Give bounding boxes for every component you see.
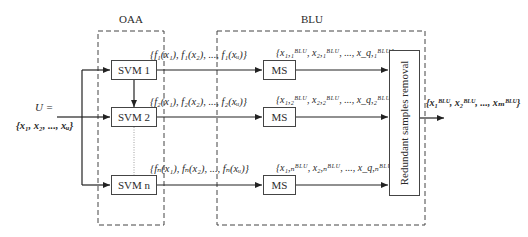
svm-1-output-set: {f₁(x₁), f₁(x₂), ..., f₁(xᵤ)}	[150, 50, 247, 61]
final-output-set: {x₁ᴮᴸᵁ, x₂ᴮᴸᵁ, ..., xₘᴮᴸᵁ}	[426, 98, 520, 108]
ms-1-output-set: {x₁,₁ᴮᴸᵁ, x₂,₁ᴮᴸᵁ, ..., x_q,₁ᴮᴸᵁ}	[276, 48, 394, 58]
svm-1-box: SVM 1	[111, 60, 157, 80]
input-set-label-line1: U =	[35, 102, 53, 113]
ms-n-output-set: {x₁,ₙᴮᴸᵁ, x₂,ₙᴮᴸᵁ, ..., x_q,ₙᴮᴸᵁ}	[276, 163, 396, 173]
ms-2-box: MS	[263, 107, 296, 127]
ms-n-box: MS	[263, 175, 296, 195]
input-set-label-line2: {x₁, x₂, ..., xᵤ}	[16, 121, 73, 132]
svm-2-box: SVM 2	[111, 107, 157, 127]
ms-2-output-set: {x₁,₂ᴮᴸᵁ, x₂,₂ᴮᴸᵁ, ..., x_q,₂ᴮᴸᵁ}	[276, 95, 394, 105]
redundant-samples-removal-box: Redundant samples removal	[389, 50, 420, 196]
blu-group-label: BLU	[301, 14, 323, 25]
svm-2-output-set: {f₂(x₁), f₂(x₂), ..., f₂(xᵤ)}	[150, 97, 247, 108]
svm-n-box: SVM n	[111, 175, 157, 195]
svm-n-output-set: {fₙ(x₁), fₙ(x₂), ..., fₙ(xᵤ)}	[150, 164, 249, 175]
redundant-samples-removal-label: Redundant samples removal	[399, 61, 411, 186]
oaa-group-label: OAA	[119, 14, 143, 25]
ms-1-box: MS	[263, 60, 296, 80]
